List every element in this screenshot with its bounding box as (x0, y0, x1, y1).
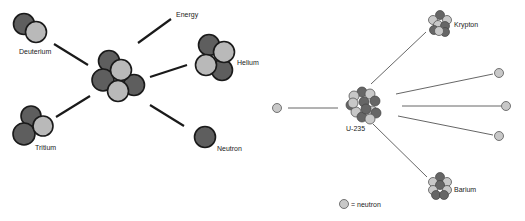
proton (33, 116, 53, 136)
incoming-neutron (273, 104, 282, 113)
neutron (365, 114, 375, 124)
neutron (195, 127, 216, 148)
barium-path (373, 124, 427, 177)
proton (361, 104, 371, 114)
neutron-connector (150, 105, 184, 126)
tritium-connector (56, 96, 90, 117)
deuterium-nucleus (14, 14, 47, 43)
krypton-nucleus (429, 11, 452, 37)
emitted-neutron (495, 69, 504, 78)
fusing-nucleus (92, 51, 145, 102)
neutron-path-3 (398, 116, 493, 135)
krypton-path (371, 32, 426, 84)
neutron (348, 98, 358, 108)
helium-nucleus (196, 35, 235, 81)
legend-neutron-icon (340, 200, 349, 209)
proton (440, 191, 449, 200)
legend-label: = neutron (351, 201, 381, 208)
helium-label: Helium (237, 59, 259, 66)
neutron (435, 27, 444, 36)
neutron-label: Neutron (217, 145, 242, 152)
neutron (214, 42, 235, 63)
energy-label: Energy (176, 11, 199, 19)
deuterium-label: Deuterium (19, 48, 51, 55)
emitted-neutron (495, 132, 504, 141)
nucleon (111, 60, 132, 81)
neutron (13, 123, 35, 145)
tritium-label: Tritium (35, 144, 56, 151)
legend: = neutron (340, 200, 381, 209)
proton (432, 191, 441, 200)
deuterium-connector (54, 44, 88, 65)
helium-connector (150, 65, 187, 77)
neutron-path-1 (396, 74, 493, 94)
emitted-neutron (502, 102, 511, 111)
proton (370, 96, 380, 106)
nucleon (108, 81, 129, 102)
barium-nucleus (429, 173, 452, 200)
u235-label: U-235 (346, 125, 365, 132)
neutron-particle (195, 127, 216, 148)
energy-connector (138, 19, 171, 43)
tritium-nucleus (13, 106, 53, 145)
krypton-label: Krypton (454, 21, 478, 29)
neutron (196, 55, 217, 76)
nuclear-reactions-diagram: Deuterium Tritium Energy Helium (0, 0, 525, 221)
barium-label: Barium (454, 186, 476, 193)
fission-diagram: U-235 Krypton Barium = neutron (273, 11, 511, 209)
fusion-diagram: Deuterium Tritium Energy Helium (13, 11, 259, 152)
neutron (26, 22, 47, 43)
u235-nucleus (346, 87, 381, 124)
